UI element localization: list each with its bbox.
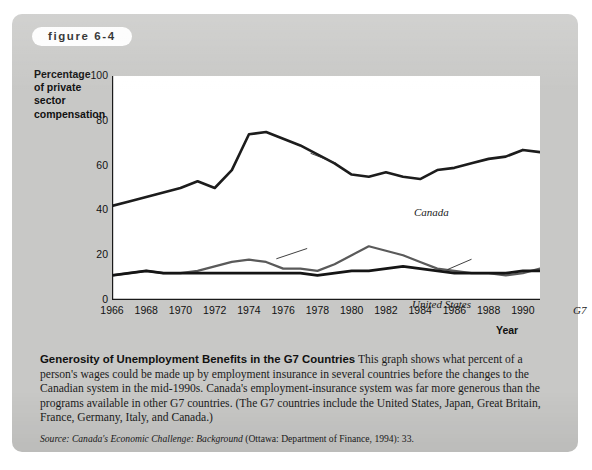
caption-text: Generosity of Unemployment Benefits in t…: [40, 352, 548, 426]
x-tick-label: 1980: [340, 304, 363, 316]
source-title: Canada's Economic Challenge: Background: [72, 433, 243, 444]
caption-source: Source: Canada's Economic Challenge: Bac…: [40, 433, 548, 445]
leader-canada: [311, 153, 337, 163]
x-tick-label: 1982: [374, 304, 397, 316]
y-tick-label: 40: [78, 203, 108, 215]
x-tick-label: 1970: [169, 304, 192, 316]
series-label-canada: Canada: [414, 206, 449, 218]
chart-plot-svg: [112, 76, 540, 300]
source-prefix: Source:: [40, 433, 69, 444]
x-tick-label: 1984: [408, 304, 431, 316]
y-tick-label: 60: [78, 159, 108, 171]
x-tick-label: 1988: [477, 304, 500, 316]
figure-number-badge: figure 6-4: [32, 27, 132, 46]
x-axis-title: Year: [496, 324, 518, 336]
leader-g7: [448, 259, 472, 269]
series-line-canada: [112, 132, 540, 206]
y-tick-label: 80: [78, 114, 108, 126]
x-tick-label: 1978: [306, 304, 329, 316]
leader-united-states: [276, 248, 307, 258]
series-label-g7: G7: [573, 304, 586, 316]
source-rest: (Ottawa: Department of Finance, 1994): 3…: [245, 433, 414, 444]
caption-title: Generosity of Unemployment Benefits in t…: [40, 353, 355, 365]
series-line-united-states: [112, 246, 540, 275]
x-axis-tick-labels: 1966196819701972197419761978198019821984…: [112, 304, 552, 320]
figure-panel: figure 6-4 Percentage of private sector …: [12, 14, 578, 452]
x-tick-label: 1972: [203, 304, 226, 316]
x-tick-label: 1968: [135, 304, 158, 316]
plot-area: Canada United States G7: [112, 76, 540, 300]
y-axis-tick-labels: 020406080100: [74, 76, 108, 300]
x-tick-label: 1976: [272, 304, 295, 316]
x-tick-label: 1974: [237, 304, 260, 316]
chart-region: Percentage of private sector compensatio…: [12, 48, 578, 338]
x-tick-label: 1990: [511, 304, 534, 316]
y-tick-label: 20: [78, 248, 108, 260]
caption-block: Generosity of Unemployment Benefits in t…: [40, 352, 548, 445]
y-tick-label: 100: [78, 69, 108, 81]
x-tick-label: 1966: [100, 304, 123, 316]
x-tick-label: 1986: [443, 304, 466, 316]
